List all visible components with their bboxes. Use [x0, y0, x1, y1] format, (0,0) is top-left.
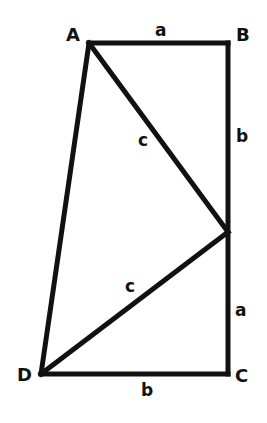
side-label-ae: c — [138, 132, 148, 149]
vertex-label-a: A — [66, 26, 80, 44]
trapezoid-figure — [0, 0, 267, 423]
vertex-label-b: B — [236, 26, 250, 44]
side-label-be: b — [236, 128, 248, 145]
side-label-cd: b — [141, 382, 153, 399]
edge-de — [41, 232, 228, 374]
edge-da — [41, 43, 89, 374]
side-label-ab: a — [155, 22, 166, 39]
vertex-label-d: D — [17, 366, 32, 384]
vertex-label-c: C — [235, 367, 248, 385]
side-label-de: c — [125, 278, 135, 295]
diagram-canvas: A B C D a b a b c c — [0, 0, 267, 423]
edge-ae — [89, 43, 228, 232]
side-label-ec: a — [235, 302, 246, 319]
